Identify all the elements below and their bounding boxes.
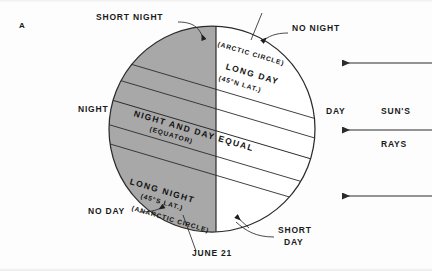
label-june-21: JUNE 21 (192, 249, 232, 258)
figure-canvas: A SHORT NIGHT NO NIGHT NIGHT DAY SUN'S R… (0, 0, 432, 271)
label-short-day-line2: DAY (284, 238, 304, 247)
panel-letter: A (19, 22, 25, 30)
label-day: DAY (326, 107, 346, 116)
sun-rays-group (342, 63, 432, 196)
label-no-day: NO DAY (88, 207, 125, 216)
label-night: NIGHT (78, 105, 108, 114)
label-short-night: SHORT NIGHT (96, 13, 163, 22)
label-rays: RAYS (381, 140, 407, 149)
label-suns: SUN'S (381, 107, 411, 116)
label-no-night: NO NIGHT (292, 24, 340, 33)
label-short-day-line1: SHORT (278, 226, 312, 235)
